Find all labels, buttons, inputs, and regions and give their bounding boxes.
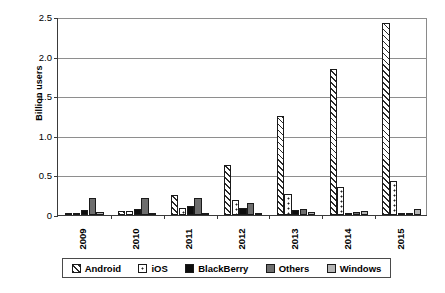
bar-android-2009 [65,213,72,215]
bar-blackberry-2011 [187,206,194,215]
y-axis-tick-labels: 00.51.01.52.02.5 [6,0,52,293]
bar-android-2010 [118,211,125,215]
bar-windows-2009 [96,212,103,215]
bar-windows-2012 [255,213,262,215]
x-tick-label-2011: 2011 [184,219,194,259]
x-axis-tick-labels: 2009201020112012201320142015 [57,216,427,256]
bar-ios-2014 [337,187,344,215]
legend-item-others[interactable]: Others [257,263,318,274]
x-tick-label-2012: 2012 [237,219,247,259]
bar-android-2013 [277,116,284,215]
bar-windows-2010 [149,213,156,215]
legend-item-blackberry[interactable]: BlackBerry [177,263,258,274]
y-tick-label: 0 [10,211,52,221]
bar-android-2015 [382,23,389,215]
legend-label: Others [279,263,310,274]
bar-windows-2015 [414,209,421,215]
legend: AndroidiOSBlackBerryOthersWindows [62,258,391,278]
bar-android-2011 [171,195,178,215]
y-tick-label: 1.0 [10,132,52,142]
bar-others-2015 [406,213,413,215]
bar-ios-2015 [390,181,397,215]
bar-others-2013 [300,209,307,215]
legend-swatch-others-icon [266,264,275,273]
bar-ios-2009 [73,213,80,215]
bar-chart: Billion users 00.51.01.52.02.5 200920102… [0,0,445,293]
bar-android-2012 [224,165,231,215]
x-tick-label-2010: 2010 [131,219,141,259]
bar-blackberry-2010 [134,209,141,215]
bar-group-2010 [111,18,164,215]
y-tick-label: 0.5 [10,172,52,182]
y-tick-label: 1.5 [10,92,52,102]
bar-others-2011 [194,198,201,215]
bar-others-2014 [353,212,360,215]
bar-windows-2013 [308,212,315,215]
bar-ios-2012 [232,200,239,215]
bar-ios-2013 [284,194,291,215]
y-tick-label: 2.5 [10,13,52,23]
bar-ios-2010 [126,211,133,215]
legend-swatch-blackberry-icon [185,264,194,273]
legend-item-ios[interactable]: iOS [130,263,177,274]
bar-windows-2011 [202,213,209,215]
bar-blackberry-2009 [81,210,88,215]
legend-item-android[interactable]: Android [63,263,130,274]
bar-blackberry-2012 [239,208,246,215]
legend-item-windows[interactable]: Windows [318,263,390,274]
bar-group-2012 [217,18,270,215]
legend-swatch-android-icon [72,264,81,273]
bar-blackberry-2013 [292,210,299,215]
legend-swatch-ios-icon [138,264,147,273]
bar-others-2009 [89,198,96,215]
bar-others-2010 [141,198,148,215]
bar-group-2014 [322,18,375,215]
y-tick-label: 2.0 [10,53,52,63]
x-tick-label-2009: 2009 [78,219,88,259]
x-tick-label-2014: 2014 [343,219,353,259]
plot-area [57,18,427,216]
bar-ios-2011 [179,208,186,215]
legend-label: iOS [151,263,167,274]
bar-windows-2014 [361,211,368,215]
bar-blackberry-2014 [345,213,352,215]
legend-label: Android [85,263,121,274]
bar-blackberry-2015 [398,213,405,215]
legend-label: BlackBerry [198,263,248,274]
bar-group-2013 [269,18,322,215]
x-tick-label-2013: 2013 [290,219,300,259]
x-tick-label-2015: 2015 [396,219,406,259]
bar-others-2012 [247,203,254,215]
bar-android-2014 [330,69,337,215]
bar-group-2011 [164,18,217,215]
legend-label: Windows [340,263,382,274]
bar-group-2015 [375,18,428,215]
bar-group-2009 [58,18,111,215]
legend-swatch-windows-icon [327,264,336,273]
